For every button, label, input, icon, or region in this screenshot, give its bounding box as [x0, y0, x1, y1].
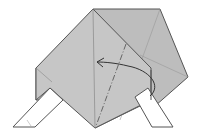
origami-diagram [0, 0, 202, 137]
